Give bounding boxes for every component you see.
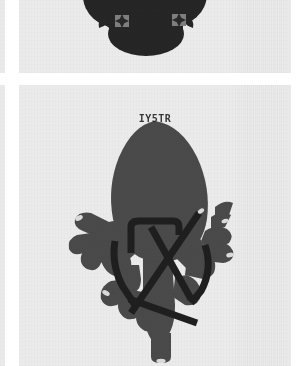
star-marker-icon [115,14,129,28]
top-panel-left-sliver [0,0,5,73]
cropped-organ-figure [19,0,291,73]
star-marker-icon [172,13,186,27]
paper-grain [0,85,5,366]
paper-grain [0,0,5,73]
figure-label: IY5TR [19,113,291,124]
main-panel: IY5TR [19,85,291,366]
scan-page: IY5TR [0,0,298,366]
main-panel-left-sliver [0,85,5,366]
heart-organ-figure [19,85,291,366]
top-panel-crop [19,0,291,73]
